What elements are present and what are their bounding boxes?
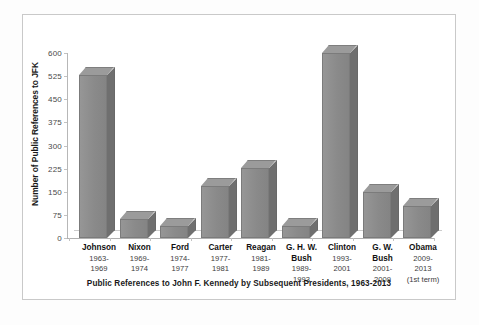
x-axis-tick-mark — [150, 238, 151, 241]
bar-column — [201, 186, 241, 238]
bar-side-face — [229, 178, 237, 238]
bar-column — [282, 226, 322, 238]
bar — [120, 219, 148, 238]
category-name: Obama — [397, 243, 449, 254]
x-axis-tick-mark — [69, 238, 70, 241]
x-axis-tick-mark — [393, 238, 394, 241]
y-axis-tick-mark — [64, 99, 67, 100]
y-axis-tick-label: 375 — [48, 118, 62, 127]
bar-column — [322, 53, 362, 238]
category-term: 2009- — [397, 254, 449, 265]
category-term: 2013 — [397, 264, 449, 275]
bar-front-face — [363, 192, 391, 238]
bar-front-face — [282, 226, 310, 238]
bar — [201, 186, 229, 238]
bar-front-face — [79, 75, 107, 238]
x-axis-tick-mark — [353, 238, 354, 241]
y-axis-title: Number of Public References to JFK — [28, 39, 42, 229]
x-axis-tick-mark — [434, 238, 435, 241]
bar-side-face — [350, 45, 358, 238]
y-axis-tick-mark — [64, 169, 67, 170]
bar-front-face — [322, 53, 350, 238]
bar-front-face — [120, 219, 148, 238]
y-axis-tick-mark — [64, 192, 67, 193]
y-axis-tick-mark — [64, 215, 67, 216]
y-axis-line — [67, 53, 68, 238]
plot-area: 600525450375300225150750 — [67, 39, 439, 237]
y-axis-tick-label: 600 — [48, 49, 62, 58]
figure-caption: Public References to John F. Kennedy by … — [23, 279, 455, 288]
y-axis-tick-mark — [64, 146, 67, 147]
bar — [160, 226, 188, 238]
bar — [322, 53, 350, 238]
y-axis-tick-mark — [64, 76, 67, 77]
bar — [241, 168, 269, 238]
bar-front-face — [403, 206, 431, 238]
bar-column — [403, 206, 443, 238]
y-axis-tick-label: 150 — [48, 187, 62, 196]
chart-figure-frame: Number of Public References to JFK 60052… — [22, 14, 456, 300]
y-axis-tick-label: 450 — [48, 95, 62, 104]
bar-side-face — [269, 160, 277, 238]
y-axis-tick-mark — [64, 238, 67, 239]
bar-front-face — [201, 186, 229, 238]
y-axis-tick-label: 300 — [48, 141, 62, 150]
bar-front-face — [241, 168, 269, 238]
bar-column — [241, 168, 281, 238]
x-axis-tick-mark — [272, 238, 273, 241]
bar-top-face — [282, 218, 317, 226]
bar-front-face — [160, 226, 188, 238]
y-axis-tick-label: 0 — [57, 234, 62, 243]
y-axis-tick-mark — [64, 53, 67, 54]
bar-column — [160, 226, 200, 238]
bar — [282, 226, 310, 238]
bar-column — [79, 75, 119, 238]
x-axis-tick-mark — [110, 238, 111, 241]
bar-side-face — [107, 67, 115, 238]
y-axis-tick-label: 225 — [48, 164, 62, 173]
bar-side-face — [391, 184, 399, 238]
bar-column — [363, 192, 403, 238]
bar-column — [120, 219, 160, 238]
y-axis-tick-mark — [64, 122, 67, 123]
bar — [363, 192, 391, 238]
x-axis-baseline — [67, 238, 435, 239]
y-axis-tick-label: 525 — [48, 72, 62, 81]
bar — [79, 75, 107, 238]
x-axis-tick-mark — [191, 238, 192, 241]
bar — [403, 206, 431, 238]
x-axis-tick-mark — [312, 238, 313, 241]
y-axis-tick-label: 75 — [53, 210, 62, 219]
x-axis-tick-mark — [231, 238, 232, 241]
